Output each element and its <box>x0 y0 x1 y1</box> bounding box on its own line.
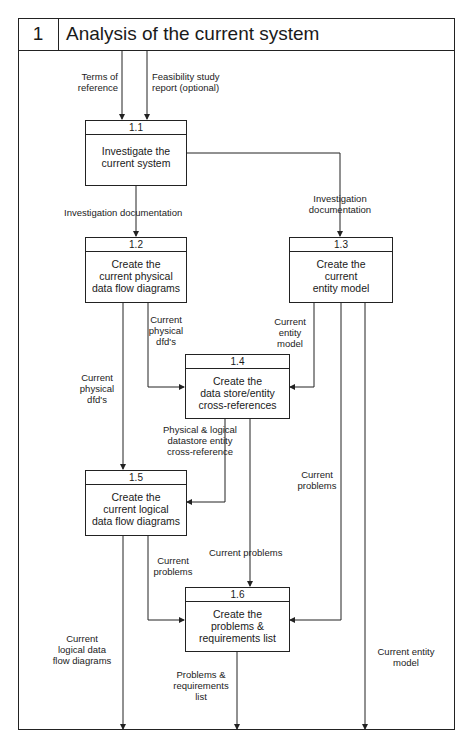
flow-15-to-16 <box>148 535 184 620</box>
process-1-2[interactable]: 1.2 Create the current physical data flo… <box>85 237 187 303</box>
label-current-entity-model-to-14: Current entity model <box>268 316 312 349</box>
label-current-physical-dfds-to-15: Current physical dfd's <box>74 372 120 405</box>
process-1-3[interactable]: 1.3 Create the current entity model <box>289 237 393 303</box>
process-1-1[interactable]: 1.1 Investigate the current system <box>85 120 187 186</box>
label-cross-reference: Physical & logical datastore entity cros… <box>152 424 248 457</box>
process-1-6[interactable]: 1.6 Create the problems & requirements l… <box>185 587 290 652</box>
label-investigation-doc-right: Investigation documentation <box>300 193 380 215</box>
process-label: Create the problems & requirements list <box>186 602 289 644</box>
process-label: Create the current entity model <box>290 252 392 294</box>
label-current-logical-dfds-out: Current logical data flow diagrams <box>44 633 120 666</box>
flow-13-to-16 <box>290 302 341 620</box>
process-label: Create the data store/entity cross-refer… <box>186 369 289 411</box>
label-terms-of-reference: Terms of reference <box>60 71 118 93</box>
label-feasibility-report: Feasibility study report (optional) <box>152 71 252 93</box>
label-current-problems-15: Current problems <box>150 555 196 577</box>
label-current-physical-dfds-to-14: Current physical dfd's <box>146 314 186 347</box>
label-investigation-doc-left: Investigation documentation <box>64 207 214 218</box>
process-id: 1.6 <box>186 588 289 602</box>
process-label: Investigate the current system <box>86 135 186 169</box>
process-1-5[interactable]: 1.5 Create the current logical data flow… <box>85 470 187 536</box>
process-label: Create the current logical data flow dia… <box>86 485 186 527</box>
label-current-problems-13: Current problems <box>294 469 340 491</box>
process-id: 1.1 <box>86 121 186 135</box>
process-id: 1.3 <box>290 238 392 252</box>
process-id: 1.2 <box>86 238 186 252</box>
process-id: 1.5 <box>86 471 186 485</box>
label-current-entity-model-out: Current entity model <box>368 646 444 668</box>
label-current-problems-14: Current problems <box>209 547 309 558</box>
process-1-4[interactable]: 1.4 Create the data store/entity cross-r… <box>185 354 290 419</box>
process-id: 1.4 <box>186 355 289 369</box>
dfd-diagram: 1 Analysis of the current system <box>0 0 468 743</box>
label-problems-requirements-out: Problems & requirements list <box>168 669 234 702</box>
process-label: Create the current physical data flow di… <box>86 252 186 294</box>
